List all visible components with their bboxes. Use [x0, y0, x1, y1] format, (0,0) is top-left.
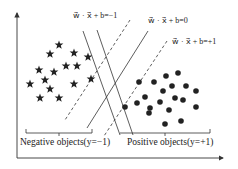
dot-point-icon — [163, 73, 169, 79]
dot-point-icon — [183, 83, 189, 89]
dot-point-icon — [134, 100, 140, 106]
dashed-line-right — [104, 41, 167, 136]
star-point-icon — [62, 61, 71, 69]
star-point-icon — [70, 79, 79, 87]
dot-point-icon — [166, 107, 172, 113]
negative-points — [26, 40, 96, 101]
positive-brace — [120, 129, 210, 136]
equation-zero-label: w⃗ · x⃗ + b=0 — [148, 16, 188, 25]
dot-point-icon — [175, 70, 181, 76]
star-point-icon — [55, 40, 64, 48]
star-point-icon — [36, 93, 45, 101]
negative-brace — [26, 129, 92, 136]
negative-objects-caption: Negative objects(y=−1) — [20, 137, 110, 147]
dot-point-icon — [193, 88, 199, 94]
equation-minus-one-label: w⃗ · x⃗ + b=−1 — [73, 11, 117, 20]
star-point-icon — [55, 93, 64, 101]
dot-point-icon — [151, 79, 157, 85]
dot-point-icon — [178, 118, 184, 124]
margin-line-negative — [83, 31, 120, 135]
equation-plus-one-label: w⃗ · x⃗ + b=+1 — [172, 37, 216, 46]
positive-points — [122, 70, 199, 127]
dot-point-icon — [172, 95, 178, 101]
dashed-line-left — [65, 20, 130, 120]
dot-point-icon — [136, 79, 142, 85]
dot-point-icon — [160, 88, 166, 94]
dot-point-icon — [146, 110, 152, 116]
dot-point-icon — [157, 99, 163, 105]
dot-point-icon — [180, 97, 186, 103]
dot-point-icon — [193, 104, 199, 110]
star-point-icon — [41, 75, 50, 83]
star-point-icon — [70, 48, 79, 56]
star-point-icon — [46, 84, 55, 92]
dot-point-icon — [142, 94, 148, 100]
dot-point-icon — [162, 121, 168, 127]
star-point-icon — [26, 79, 35, 87]
star-point-icon — [50, 67, 59, 75]
dot-point-icon — [169, 83, 175, 89]
star-point-icon — [46, 49, 55, 57]
dot-point-icon — [147, 105, 153, 111]
positive-objects-caption: Positive objects(y=+1) — [127, 137, 213, 147]
star-point-icon — [73, 61, 82, 69]
dot-point-icon — [122, 104, 128, 110]
star-point-icon — [35, 65, 44, 73]
